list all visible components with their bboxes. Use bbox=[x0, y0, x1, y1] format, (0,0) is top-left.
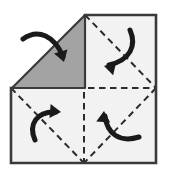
fold-diagram-canvas bbox=[0, 0, 169, 179]
origami-fold-diagram bbox=[0, 0, 169, 179]
